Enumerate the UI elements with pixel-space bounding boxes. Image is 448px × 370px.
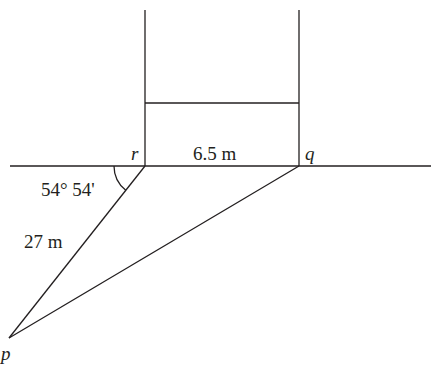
length-label-rq: 6.5 m [193, 143, 237, 164]
point-label-q: q [305, 143, 315, 164]
angle-label-r: 54° 54' [41, 179, 95, 200]
point-label-r: r [131, 143, 139, 164]
length-label-rp: 27 m [24, 231, 63, 252]
point-label-p: p [0, 343, 11, 364]
triangle-diagram: r q p 6.5 m 54° 54' 27 m [0, 0, 448, 370]
angle-arc-r [114, 166, 126, 190]
